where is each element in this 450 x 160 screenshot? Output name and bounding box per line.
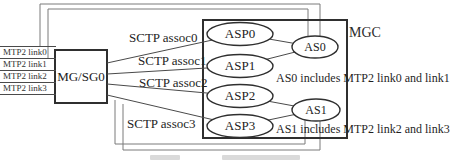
sctp-assoc2-label: SCTP assoc2	[139, 75, 208, 91]
mg-sg0-label: MG/SG0	[55, 50, 107, 103]
cropped-caption-fragment	[150, 155, 180, 160]
as0-label: AS0	[292, 36, 338, 58]
mtp2-link2-label: MTP2 link2	[0, 71, 56, 83]
cropped-caption-fragment	[222, 155, 300, 160]
as1-includes-annotation: AS1 includes MTP2 link2 and link3	[276, 122, 450, 137]
asp3-label: ASP3	[207, 115, 273, 137]
sctp-assoc1-label: SCTP assoc1	[138, 53, 207, 69]
mtp2-link0-label: MTP2 link0	[0, 47, 56, 59]
as0-includes-annotation: AS0 includes MTP2 link0 and link1	[276, 71, 450, 86]
asp1-label: ASP1	[207, 55, 273, 77]
sctp-assoc3-label: SCTP assoc3	[127, 116, 196, 132]
mgc-label: MGC	[349, 25, 381, 41]
sctp-assoc0-label: SCTP assoc0	[129, 30, 198, 46]
asp0-label: ASP0	[207, 23, 273, 45]
asp2-label: ASP2	[207, 85, 273, 107]
as1-label: AS1	[292, 99, 340, 121]
mtp2-link1-label: MTP2 link1	[0, 59, 56, 71]
mtp2-link3-label: MTP2 link3	[0, 83, 56, 95]
mtp2-link-stack: MTP2 link0 MTP2 link1 MTP2 link2 MTP2 li…	[0, 46, 56, 95]
